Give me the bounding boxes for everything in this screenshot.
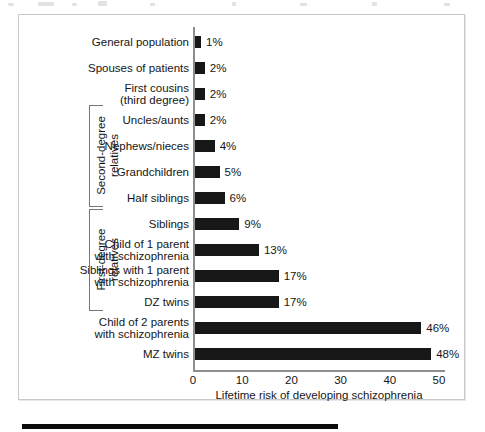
bar-value-label: 4% bbox=[220, 133, 237, 159]
group-label: Second-degreerelatives bbox=[95, 96, 120, 216]
bar-value-label: 2% bbox=[210, 107, 227, 133]
bar bbox=[195, 218, 239, 230]
bar-value-label: 17% bbox=[284, 263, 307, 289]
bar-category-label-line: Grandchildren bbox=[117, 166, 189, 179]
group-label-line: relatives bbox=[107, 96, 120, 216]
bar-row: DZ twins17% bbox=[19, 289, 464, 315]
x-axis-tick-label: 30 bbox=[321, 374, 361, 386]
scan-artifacts bbox=[0, 0, 485, 12]
figure-frame: Lifetime risk of developing schizophreni… bbox=[18, 14, 465, 400]
x-axis-tick-label: 50 bbox=[419, 374, 459, 386]
bar-category-label-line: with schizophrenia bbox=[94, 328, 189, 341]
bar bbox=[195, 62, 205, 74]
bottom-rule bbox=[22, 424, 338, 429]
bar-row: Nephews/nieces4% bbox=[19, 133, 464, 159]
bar-value-label: 46% bbox=[426, 315, 449, 341]
group-label-line: Second-degree bbox=[95, 96, 108, 216]
bar-category-label-line: General population bbox=[92, 36, 189, 49]
bar bbox=[195, 192, 225, 204]
bar-category-label-line: Siblings bbox=[149, 218, 189, 231]
bar bbox=[195, 36, 201, 48]
bar bbox=[195, 166, 220, 178]
bar-value-label: 17% bbox=[284, 289, 307, 315]
bar bbox=[195, 348, 431, 360]
bar-value-label: 1% bbox=[206, 29, 223, 55]
bar bbox=[195, 88, 205, 100]
bar-row: General population1% bbox=[19, 29, 464, 55]
x-axis-tick-label: 10 bbox=[222, 374, 262, 386]
bar-row: Child of 2 parentswith schizophrenia46% bbox=[19, 315, 464, 341]
bar-row: Siblings9% bbox=[19, 211, 464, 237]
bar-category-label-line: Half siblings bbox=[127, 192, 189, 205]
bar bbox=[195, 114, 205, 126]
bar-category-label-line: DZ twins bbox=[144, 296, 189, 309]
group-label-line: relatives bbox=[107, 200, 120, 320]
bar-chart-plot: Lifetime risk of developing schizophreni… bbox=[19, 15, 464, 399]
group-label-line: First-degree bbox=[95, 200, 108, 320]
bar-row: Spouses of patients2% bbox=[19, 55, 464, 81]
bar-row: Siblings with 1 parentwith schizophrenia… bbox=[19, 263, 464, 289]
bar-value-label: 6% bbox=[230, 185, 247, 211]
bar-value-label: 2% bbox=[210, 55, 227, 81]
x-axis-line bbox=[193, 370, 445, 372]
bar-value-label: 9% bbox=[244, 211, 261, 237]
bar-value-label: 5% bbox=[225, 159, 242, 185]
bar-category-label-line: Uncles/aunts bbox=[123, 114, 189, 127]
bar-category-label-line: MZ twins bbox=[143, 348, 189, 361]
x-axis-title: Lifetime risk of developing schizophreni… bbox=[193, 389, 445, 401]
bar bbox=[195, 140, 215, 152]
bar-value-label: 13% bbox=[264, 237, 287, 263]
bar-row: Child of 1 parentwith schizophrenia13% bbox=[19, 237, 464, 263]
bar-value-label: 2% bbox=[210, 81, 227, 107]
bar-row: First cousins(third degree)2% bbox=[19, 81, 464, 107]
bar bbox=[195, 244, 259, 256]
bar-row: Half siblings6% bbox=[19, 185, 464, 211]
group-label: First-degreerelatives bbox=[95, 200, 120, 320]
bar-category-label-line: (third degree) bbox=[120, 94, 189, 107]
bar-value-label: 48% bbox=[436, 341, 459, 367]
bar-category-label: General population bbox=[19, 29, 189, 55]
bar-category-label-line: Spouses of patients bbox=[88, 62, 189, 75]
bar-row: Grandchildren5% bbox=[19, 159, 464, 185]
x-axis-tick-label: 0 bbox=[173, 374, 213, 386]
bar-row: Uncles/aunts2% bbox=[19, 107, 464, 133]
bar-category-label-line: First cousins bbox=[124, 82, 189, 95]
bar bbox=[195, 270, 279, 282]
bar bbox=[195, 296, 279, 308]
bar-category-label: MZ twins bbox=[19, 341, 189, 367]
x-axis-tick-label: 20 bbox=[271, 374, 311, 386]
bar-category-label: Spouses of patients bbox=[19, 55, 189, 81]
x-axis-tick-label: 40 bbox=[370, 374, 410, 386]
bar bbox=[195, 322, 421, 334]
bar-row: MZ twins48% bbox=[19, 341, 464, 367]
